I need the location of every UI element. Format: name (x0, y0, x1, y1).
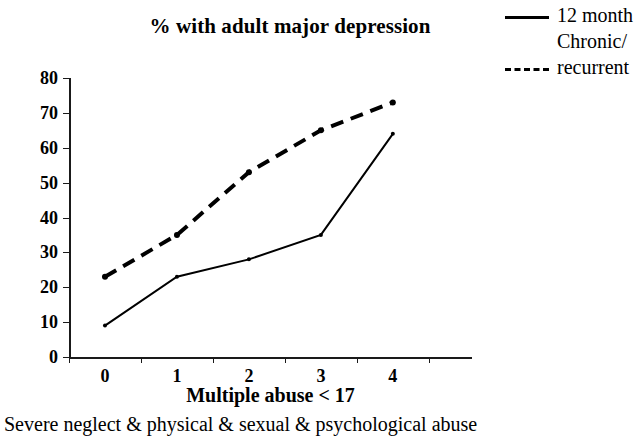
y-axis-tick-label: 70 (40, 103, 58, 124)
legend-entry-chronic-line1: Chronic/ (505, 30, 634, 56)
data-point (174, 232, 180, 238)
x-axis-title: Multiple abuse < 17 (69, 384, 472, 407)
legend-label-12-month: 12 month (557, 4, 633, 27)
data-point (247, 257, 251, 261)
y-axis-tick-label: 20 (40, 277, 58, 298)
x-axis-tick (141, 357, 142, 363)
y-axis-tick-label: 80 (40, 68, 58, 89)
x-axis-tick (69, 357, 70, 363)
data-point (318, 127, 324, 133)
figure-caption: Severe neglect & physical & sexual & psy… (4, 413, 477, 436)
x-axis-tick (429, 357, 430, 363)
data-point (102, 274, 108, 280)
y-axis-tick-label: 50 (40, 173, 58, 194)
chart-title: % with adult major depression (100, 14, 480, 39)
chart-legend: 12 month Chronic/ recurrent (505, 4, 634, 82)
x-axis-tick (357, 357, 358, 363)
chart-figure: % with adult major depression 12 month C… (0, 0, 634, 443)
legend-dashed-line-icon (505, 68, 549, 71)
data-point (391, 132, 395, 136)
y-axis-tick-label: 40 (40, 208, 58, 229)
x-axis-tick (285, 357, 286, 363)
data-point (246, 169, 252, 175)
series-line-solid (105, 134, 393, 326)
series-line-dashed (105, 102, 393, 276)
y-axis-tick-label: 30 (40, 242, 58, 263)
x-axis-tick (213, 357, 214, 363)
data-point (390, 99, 396, 105)
x-axis-line (69, 357, 472, 359)
plot-area: 01020304050607080 01234 (69, 78, 472, 357)
legend-entry-chronic-line2: recurrent (505, 56, 634, 82)
y-axis-tick-label: 0 (49, 347, 58, 368)
data-point (175, 275, 179, 279)
data-point (319, 233, 323, 237)
legend-solid-line-icon (505, 16, 549, 19)
legend-label-chronic: Chronic/ (557, 30, 627, 53)
legend-entry-12-month: 12 month (505, 4, 634, 30)
legend-label-recurrent: recurrent (557, 56, 629, 79)
y-axis-tick-label: 60 (40, 138, 58, 159)
data-point (103, 324, 107, 328)
y-axis-tick-label: 10 (40, 312, 58, 333)
series-lines (69, 78, 472, 357)
